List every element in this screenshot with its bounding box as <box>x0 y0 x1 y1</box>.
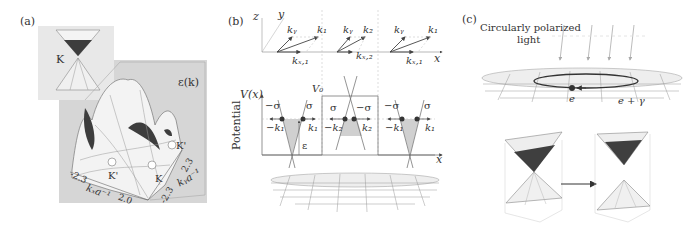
ky-label-1: kᵧ <box>287 24 297 35</box>
gapless-dirac-cone-icon <box>505 132 562 222</box>
gapped-dirac-cone-icon <box>595 132 650 222</box>
light-rays-icon <box>552 25 646 60</box>
k-left-3: −k₁ <box>385 122 403 133</box>
sigma-left-2: σ <box>330 102 337 113</box>
k-right-1: k₁ <box>308 122 318 133</box>
inset-k-label: K <box>56 53 64 66</box>
axis-z-label: z <box>253 10 259 23</box>
ky-label-3: kᵧ <box>394 24 404 35</box>
sigma-right-3: σ <box>424 100 431 111</box>
kx-label-2: kₓ,₂ <box>356 50 373 61</box>
valley-label-k-prime-right: K' <box>176 140 186 151</box>
potential-axis-label: V(x) <box>240 88 263 101</box>
sigma-left-1: −σ <box>265 100 280 111</box>
potential-ylabel: Potential <box>230 100 243 150</box>
k-left-2: −k₂ <box>324 122 342 133</box>
valley-label-k: K <box>155 173 162 184</box>
k-label-1: k₁ <box>317 24 327 35</box>
sigma-left-3: −σ <box>384 100 399 111</box>
k-left-1: −k₁ <box>266 122 284 133</box>
electron-label: e <box>569 93 575 104</box>
kx-label-1: kₓ,₁ <box>292 55 309 66</box>
valley-label-k-prime-left: K' <box>108 170 118 181</box>
dressed-electron-label: e + γ <box>618 95 645 106</box>
panel-c: (c) Circularly polarized light <box>450 0 688 227</box>
axis-x-label-top: x <box>434 52 440 65</box>
panel-b: (b) <box>220 0 450 227</box>
k-label-2: k₂ <box>363 24 373 35</box>
k-right-3: k₁ <box>425 122 435 133</box>
barrier-height-label: V₀ <box>312 83 323 94</box>
energy-label: ε(k) <box>178 76 199 89</box>
potential-barrier-diagram <box>220 0 450 227</box>
axis-y-label: y <box>278 8 284 21</box>
graphene-sheet-icon <box>271 173 439 212</box>
k-label-3: k₁ <box>428 24 438 35</box>
axis-x-label-bottom: x <box>436 153 442 166</box>
energy-epsilon-label: ε <box>302 140 307 151</box>
panel-a: (a) K <box>0 0 220 227</box>
floquet-diagram <box>450 0 688 227</box>
kx-label-3: kₓ,₁ <box>406 55 423 66</box>
sigma-right-1: σ <box>306 100 313 111</box>
ky-label-2: kᵧ <box>343 24 353 35</box>
k-right-2: k₂ <box>362 122 372 133</box>
sigma-right-2: −σ <box>356 102 371 113</box>
graphene-sheet-icon <box>482 68 682 102</box>
electron-dot <box>569 85 575 91</box>
